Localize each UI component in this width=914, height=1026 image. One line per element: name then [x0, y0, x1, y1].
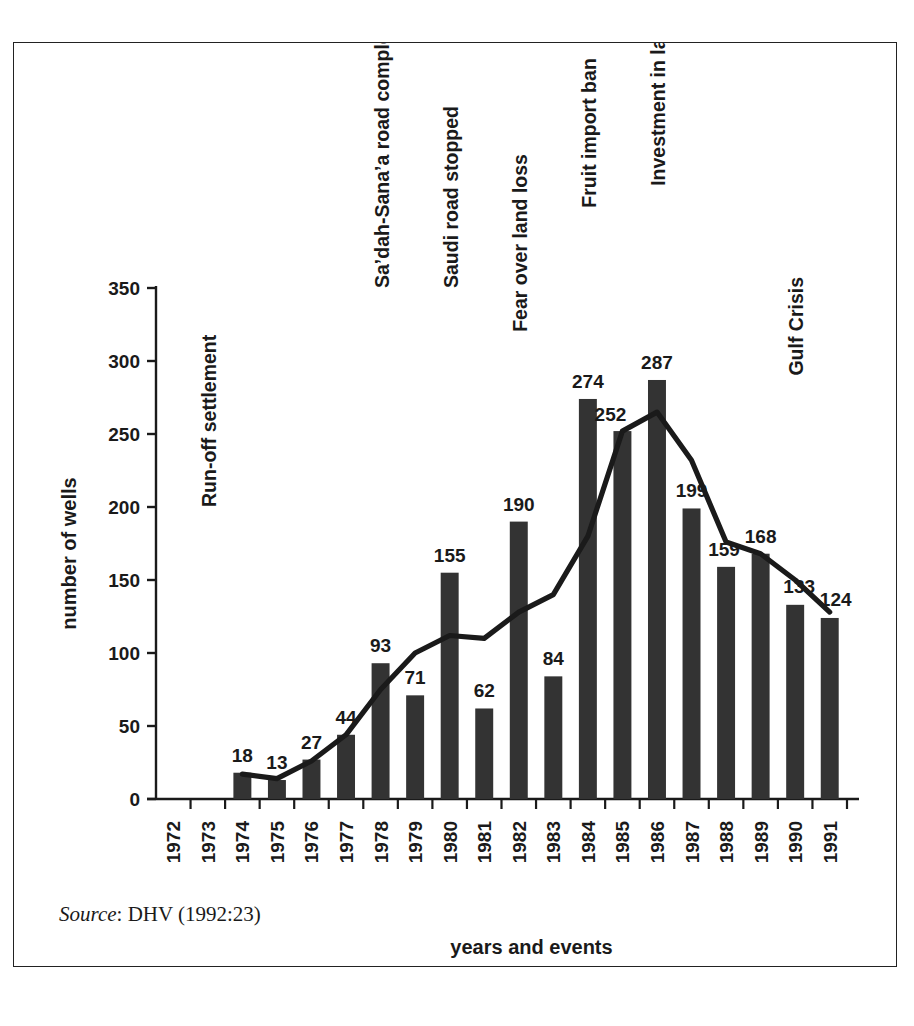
bar-value-label: 13: [266, 752, 287, 773]
x-tick-label: 1977: [336, 821, 357, 863]
bar-value-label: 274: [572, 371, 604, 392]
bar: [579, 399, 597, 799]
y-tick-label: 150: [108, 570, 140, 591]
x-tick-label: 1985: [612, 821, 633, 864]
source-caption: Source: DHV (1992:23): [59, 902, 261, 926]
bar-value-label: 18: [232, 745, 253, 766]
bar: [717, 567, 735, 799]
bar: [683, 508, 701, 799]
x-tick-label: 1989: [751, 821, 772, 863]
x-axis-title: years and events: [450, 936, 612, 958]
y-tick-label: 50: [119, 716, 140, 737]
bar-value-label: 168: [745, 526, 777, 547]
x-tick-label: 1987: [682, 821, 703, 863]
bar-value-label: 62: [474, 680, 495, 701]
bar: [786, 605, 804, 799]
bar-value-label: 44: [335, 707, 357, 728]
bar: [268, 780, 286, 799]
bar: [821, 618, 839, 799]
x-tick-label: 1991: [820, 821, 841, 864]
bar: [752, 554, 770, 799]
x-tick-label: 1983: [543, 821, 564, 863]
bar-value-label: 27: [301, 732, 322, 753]
event-annotation: Investment in land: [647, 43, 669, 186]
event-annotation: Fruit import ban: [578, 58, 600, 208]
trend-line: [242, 412, 829, 778]
x-tick-label: 1972: [163, 821, 184, 863]
bar-value-label: 71: [405, 667, 427, 688]
x-tick-label: 1982: [509, 821, 530, 863]
bar-value-label: 252: [595, 404, 627, 425]
x-tick-label: 1976: [301, 821, 322, 863]
y-tick-label: 350: [108, 278, 140, 299]
y-tick-label: 250: [108, 424, 140, 445]
y-axis-title: number of wells: [58, 477, 80, 629]
y-tick-label: 100: [108, 643, 140, 664]
bar: [648, 380, 666, 799]
bar-value-label: 93: [370, 635, 391, 656]
x-tick-label: 1980: [440, 821, 461, 863]
event-annotation: Gulf Crisis: [785, 277, 807, 376]
bar: [544, 676, 562, 799]
bar: [475, 708, 493, 799]
x-tick-label: 1981: [474, 821, 495, 864]
bar: [510, 522, 528, 799]
bar-value-label: 84: [543, 648, 565, 669]
x-tick-label: 1986: [647, 821, 668, 863]
event-annotation: Fear over land loss: [509, 154, 531, 332]
x-tick-label: 1973: [198, 821, 219, 863]
figure-frame: 050100150200250300350number of wells1972…: [13, 42, 897, 967]
bar: [613, 431, 631, 799]
x-tick-label: 1990: [785, 821, 806, 863]
event-annotation: Saudi road stopped: [440, 106, 462, 288]
bar-value-label: 155: [434, 545, 466, 566]
x-tick-label: 1978: [371, 821, 392, 863]
x-tick-label: 1984: [578, 821, 599, 864]
wells-bar-line-chart: 050100150200250300350number of wells1972…: [14, 43, 898, 968]
y-tick-label: 200: [108, 497, 140, 518]
bar-value-label: 190: [503, 494, 535, 515]
bar-value-label: 159: [708, 539, 740, 560]
chart-figure: 050100150200250300350number of wells1972…: [14, 43, 898, 968]
bar: [406, 695, 424, 799]
bar-value-label: 287: [641, 352, 673, 373]
event-annotation: Sa’dah-Sana’a road completed: [371, 43, 393, 288]
svg-text:number of wells: number of wells: [58, 477, 80, 629]
y-tick-label: 0: [129, 789, 140, 810]
bar-value-label: 133: [783, 576, 815, 597]
bar-value-label: 124: [820, 589, 852, 610]
x-tick-label: 1975: [267, 821, 288, 864]
x-tick-label: 1974: [232, 821, 253, 864]
event-annotation: Run-off settlement: [198, 334, 220, 507]
x-tick-label: 1988: [716, 821, 737, 863]
x-tick-label: 1979: [405, 821, 426, 863]
bar-value-label: 199: [676, 480, 708, 501]
y-tick-label: 300: [108, 351, 140, 372]
bar: [441, 573, 459, 799]
bar: [337, 735, 355, 799]
